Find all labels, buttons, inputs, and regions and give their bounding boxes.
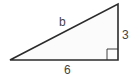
hypotenuse-label: b xyxy=(59,16,66,28)
right-triangle-diagram: b 3 6 xyxy=(0,0,138,76)
triangle-shape xyxy=(10,4,118,60)
horizontal-leg-label: 6 xyxy=(64,64,71,76)
vertical-leg-label: 3 xyxy=(122,29,129,41)
